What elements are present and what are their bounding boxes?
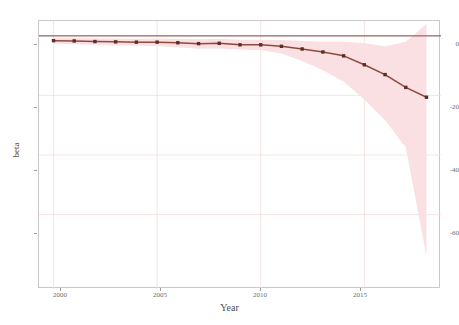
- confidence-band: [54, 24, 427, 256]
- data-point-marker: [404, 86, 407, 89]
- data-point-marker: [114, 40, 117, 43]
- chart-svg: [39, 21, 441, 289]
- data-point-marker: [155, 40, 158, 43]
- data-point-marker: [342, 54, 345, 57]
- data-point-marker: [321, 50, 324, 53]
- data-point-marker: [93, 40, 96, 43]
- y-tick-label: -40: [433, 167, 459, 174]
- x-tick-label: 2010: [240, 292, 280, 299]
- data-point-marker: [425, 96, 428, 99]
- data-point-marker: [238, 43, 241, 46]
- data-point-marker: [259, 43, 262, 46]
- data-point-marker: [218, 42, 221, 45]
- plot-area: [38, 20, 440, 288]
- y-axis-title: beta: [11, 120, 21, 180]
- data-point-marker: [197, 42, 200, 45]
- data-point-marker: [363, 63, 366, 66]
- data-point-marker: [300, 47, 303, 50]
- y-tick-mark: [34, 44, 37, 45]
- data-point-marker: [383, 73, 386, 76]
- y-tick-label: -20: [433, 104, 459, 111]
- x-tick-label: 2015: [340, 292, 380, 299]
- data-point-marker: [135, 40, 138, 43]
- chart-container: 0 -20 -40 -60 2000 2005 2010 2015 Year b…: [0, 0, 459, 325]
- data-point-marker: [176, 41, 179, 44]
- y-tick-mark: [34, 107, 37, 108]
- y-tick-mark: [34, 170, 37, 171]
- x-axis-title: Year: [0, 302, 459, 313]
- x-tick-label: 2005: [140, 292, 180, 299]
- data-point-marker: [73, 39, 76, 42]
- y-tick-label: -60: [433, 230, 459, 237]
- data-point-marker: [52, 39, 55, 42]
- y-tick-label: 0: [433, 41, 459, 48]
- x-tick-label: 2000: [40, 292, 80, 299]
- data-point-marker: [280, 45, 283, 48]
- y-tick-mark: [34, 233, 37, 234]
